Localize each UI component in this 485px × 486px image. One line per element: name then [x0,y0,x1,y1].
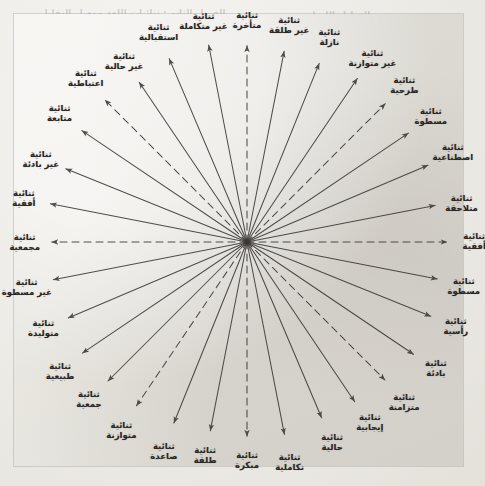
node-label: ثنائيةأفقية [463,231,485,251]
node-label-line1: ثنائية [445,193,478,203]
node-label-line2: بادئة [425,368,447,378]
node-label-line1: ثنائية [68,68,103,78]
node-label-line1: ثنائية [233,10,261,20]
node-label-line2: متزامنة [389,402,420,412]
node-label-line1: ثنائية [349,48,397,58]
node-label-line2: نازلة [318,37,340,47]
node-label-line2: متابعة [47,113,72,123]
node-label-line2: غير مسطوة [2,287,52,297]
node-label: ثنائيةغير مسطوة [2,277,52,297]
node-label: ثنائيةغير متكاملة [179,11,227,31]
spoke-line [247,242,385,380]
node-label: ثنائيةأفقية [12,188,35,208]
node-label-line1: ثنائية [415,106,448,116]
node-label-line1: ثنائية [9,232,40,242]
spoke-line [247,242,437,279]
spoke-line [247,51,284,242]
node-label-line1: ثنائية [356,412,383,422]
node-label: ثنائيةمتوليدة [28,318,59,338]
node-label: ثنائيةرأسية [443,316,468,336]
node-label-line1: ثنائية [12,188,35,198]
node-label: ثنائيةبادئة [425,358,447,378]
spoke-line [139,82,247,242]
node-label: ثنائيةاستقبالية [139,22,178,42]
node-label-line2: مسطوة [448,286,481,296]
node-label-line1: ثنائية [194,445,217,455]
node-label: ثنائيةصاعدة [150,441,177,461]
node-label-line1: ثنائية [235,450,259,460]
node-label: ثنائيةتكاملية [275,452,304,472]
node-label: ثنائيةمتأخرة [233,10,261,30]
spoke-line [174,242,247,423]
node-label: ثنائيةمبكرة [235,450,259,470]
node-label-line2: جمعية [76,399,101,409]
node-label: ثنائيةغير حالية [105,51,144,71]
node-label: ثنائيةغير بادئة [22,149,59,169]
spoke-lines [50,45,447,436]
node-label: ثنائيةغير طلقة [269,15,309,35]
node-label-line1: ثنائية [389,392,420,402]
node-label: ثنائيةمجمعية [9,232,40,252]
node-label-line2: غير متوازنة [349,58,397,68]
node-label-line1: ثنائية [2,277,52,287]
node-label-line2: مبكرة [235,460,259,470]
scanned-page: الفصل الثاني: ثنائيات اللغة ومعيار التقا… [0,0,485,486]
node-label-line2: مسطوة [415,116,448,126]
node-label: ثنائيةطلقة [194,445,217,465]
node-label: ثنائيةمسطوة [448,276,481,296]
node-label: ثنائيةمتابعة [47,103,72,123]
node-label-line2: متلاحقة [445,203,478,213]
node-label-line1: ثنائية [425,358,447,368]
spoke-line [247,205,435,242]
node-label-line1: ثنائية [321,431,343,441]
node-label: ثنائيةمتوازنة [106,420,136,440]
node-label-line1: ثنائية [463,231,485,241]
spoke-line [169,59,247,242]
node-label: ثنائيةإيجابية [356,412,383,432]
spoke-line [247,165,428,242]
node-label-line2: رأسية [443,326,468,336]
node-label-line1: ثنائية [106,420,136,430]
node-label-line1: ثنائية [46,361,74,371]
diagram-hub [245,240,249,244]
node-label-line1: ثنائية [150,441,177,451]
node-label-line1: ثنائية [22,149,59,159]
spoke-line [247,242,322,418]
node-label-line2: صاعدة [150,451,177,461]
node-label-line1: ثنائية [179,11,227,21]
node-label-line1: ثنائية [269,15,309,25]
spoke-line [137,242,248,406]
spoke-line [82,242,247,353]
node-label-line1: ثنائية [443,316,468,326]
node-label-line2: متوليدة [28,328,59,338]
node-label: ثنائيةاعتباطية [68,68,103,88]
node-label-line2: أفقية [12,198,35,208]
node-label-line2: اصطناعية [433,152,474,162]
node-label-line2: أفقية [463,241,485,251]
spoke-line [247,133,408,242]
spoke-line [247,242,414,354]
node-label-line2: اعتباطية [68,78,103,88]
spoke-line [247,79,357,243]
spoke-line [247,242,431,316]
node-label: ثنائيةغير متوازنة [349,48,397,68]
node-label-line2: تكاملية [275,462,304,472]
spoke-line [108,242,247,381]
node-label-line1: ثنائية [76,389,101,399]
node-label-line1: ثنائية [390,75,418,85]
node-label-line2: طلقة [194,455,217,465]
node-label-line2: طبيعية [46,371,74,381]
spoke-line [247,242,284,434]
hub-dot [245,240,249,244]
node-label-line1: ثنائية [275,452,304,462]
figure-panel: ثنائيةأفقيةثنائيةمتلاحقةثنائيةاصطناعيةثن… [14,14,463,466]
node-label: ثنائيةجمعية [76,389,101,409]
node-label-line2: غير بادئة [22,159,59,169]
node-label-line2: حالية [321,442,343,452]
node-label-line2: استقبالية [139,32,178,42]
spoke-line [66,169,247,242]
node-label-line1: ثنائية [105,51,144,61]
node-label-line1: ثنائية [28,318,59,328]
spoke-line [247,63,319,242]
node-label-line2: متوازنة [106,430,136,440]
